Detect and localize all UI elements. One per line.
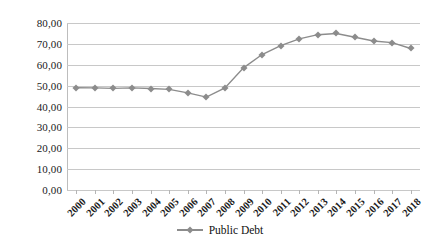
x-axis-tick [244, 190, 245, 194]
plot-area [67, 23, 420, 190]
x-axis-label: 2018 [400, 196, 423, 219]
x-axis-tick [355, 190, 356, 194]
x-axis-tick [95, 190, 96, 194]
x-axis-label: 2015 [344, 196, 367, 219]
series-line-public-debt [67, 23, 420, 190]
x-axis-label: 2013 [307, 196, 330, 219]
x-axis-tick [281, 190, 282, 194]
x-axis-tick [374, 190, 375, 194]
x-axis-tick [262, 190, 263, 194]
y-axis-label: 50,00 [0, 80, 62, 92]
legend-item-public-debt: Public Debt [177, 224, 264, 236]
x-axis-label: 2011 [270, 196, 292, 218]
y-axis-label: 30,00 [0, 121, 62, 133]
x-axis-tick [206, 190, 207, 194]
x-axis-label: 2017 [381, 196, 404, 219]
x-axis-label: 2016 [363, 196, 386, 219]
y-axis-label: 20,00 [0, 142, 62, 154]
x-axis-tick [188, 190, 189, 194]
x-axis-label: 2009 [233, 196, 256, 219]
x-axis-tick [225, 190, 226, 194]
public-debt-line-chart: 0,0010,0020,0030,0040,0050,0060,0070,008… [0, 0, 440, 246]
x-axis-tick [411, 190, 412, 194]
x-axis-tick [132, 190, 133, 194]
x-axis-label: 2007 [195, 196, 218, 219]
x-axis-tick [336, 190, 337, 194]
y-axis-label: 0,00 [0, 184, 62, 196]
legend-line-swatch-icon [177, 229, 203, 231]
x-axis-label: 2000 [65, 196, 88, 219]
x-axis-tick [113, 190, 114, 194]
x-axis-tick [76, 190, 77, 194]
x-axis-tick [318, 190, 319, 194]
x-axis-label: 2005 [158, 196, 181, 219]
chart-legend: Public Debt [0, 224, 440, 236]
y-axis-label: 80,00 [0, 17, 62, 29]
x-axis-label: 2002 [103, 196, 126, 219]
x-axis-label: 2006 [177, 196, 200, 219]
y-axis-label: 60,00 [0, 59, 62, 71]
y-axis-label: 70,00 [0, 38, 62, 50]
x-axis-tick [392, 190, 393, 194]
x-axis-tick [299, 190, 300, 194]
x-axis-tick [169, 190, 170, 194]
x-axis-label: 2004 [140, 196, 163, 219]
y-axis-label: 40,00 [0, 101, 62, 113]
y-axis-tick-labels: 0,0010,0020,0030,0040,0050,0060,0070,008… [0, 0, 62, 246]
y-axis-label: 10,00 [0, 163, 62, 175]
x-axis-label: 2008 [214, 196, 237, 219]
legend-label-public-debt: Public Debt [209, 224, 264, 236]
x-axis-label: 2012 [288, 196, 311, 219]
x-axis-label: 2001 [84, 196, 107, 219]
x-axis-label: 2003 [121, 196, 144, 219]
x-axis-label: 2014 [326, 196, 349, 219]
x-axis-label: 2010 [251, 196, 274, 219]
x-axis-tick [151, 190, 152, 194]
legend-diamond-marker-icon [186, 226, 193, 233]
